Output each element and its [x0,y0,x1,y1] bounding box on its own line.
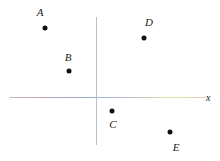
y-axis-line [96,17,97,145]
data-point-label-c: C [109,118,116,130]
x-axis-line [10,97,206,98]
x-axis-label: x [206,92,210,104]
data-point-b [67,69,72,74]
coordinate-plane-scatter-plot: x A B C D E [0,0,220,161]
data-point-label-b: B [65,51,72,63]
data-point-label-e: E [173,141,180,153]
data-point-d [142,36,147,41]
data-point-a [43,26,48,31]
data-point-e [168,130,173,135]
data-point-label-a: A [37,6,44,18]
data-point-label-d: D [145,16,153,28]
data-point-c [110,109,115,114]
